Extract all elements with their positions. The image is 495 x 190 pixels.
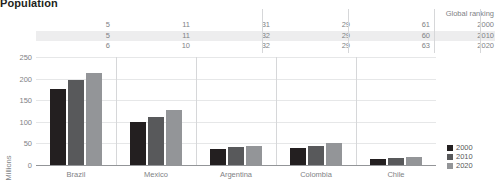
bar bbox=[148, 117, 164, 165]
ranking-value: 31 bbox=[196, 20, 270, 31]
bar bbox=[130, 122, 146, 165]
legend: 200020102020 bbox=[447, 140, 491, 167]
x-axis-category-label: Brazil bbox=[36, 170, 116, 179]
column-separator bbox=[276, 57, 277, 165]
ranking-year-label: 2020 bbox=[454, 41, 494, 52]
column-separator bbox=[356, 57, 357, 165]
ranking-year-separator bbox=[480, 9, 481, 53]
ranking-value: 5 bbox=[36, 20, 110, 31]
ranking-value: 5 bbox=[36, 31, 110, 42]
ranking-row: 5113129612000 bbox=[36, 20, 495, 31]
ranking-value: 63 bbox=[356, 41, 430, 52]
y-axis-tick-label: 150 bbox=[19, 100, 32, 101]
x-axis-category-label: Argentina bbox=[196, 170, 276, 179]
bar bbox=[370, 159, 386, 165]
ranking-row: 6103229632020 bbox=[36, 41, 495, 52]
y-axis-tick-label: 0 bbox=[28, 165, 32, 166]
x-axis-category-label: Mexico bbox=[116, 170, 196, 179]
legend-swatch-icon bbox=[447, 163, 453, 169]
bar bbox=[86, 73, 102, 165]
legend-item[interactable]: 2000 bbox=[447, 140, 491, 149]
ranking-value: 29 bbox=[276, 20, 350, 31]
y-axis-tick-label: 100 bbox=[19, 122, 32, 123]
bar bbox=[68, 80, 84, 165]
y-axis-tick-label: 50 bbox=[24, 143, 32, 144]
ranking-value: 10 bbox=[116, 41, 190, 52]
bar bbox=[166, 110, 182, 165]
bar bbox=[326, 143, 342, 165]
bar bbox=[290, 148, 306, 165]
y-axis-title: Millions bbox=[4, 114, 14, 190]
ranking-value: 11 bbox=[116, 31, 190, 42]
legend-item[interactable]: 2020 bbox=[447, 158, 491, 167]
bar bbox=[246, 146, 262, 165]
ranking-row: 5113229602010 bbox=[36, 31, 495, 42]
x-axis-category-label: Colombia bbox=[276, 170, 356, 179]
ranking-value: 29 bbox=[276, 41, 350, 52]
y-axis-tick-label: 250 bbox=[19, 57, 32, 58]
bar bbox=[406, 157, 422, 165]
bar bbox=[388, 158, 404, 165]
ranking-column-separator bbox=[348, 9, 349, 53]
y-axis-tick-label: 200 bbox=[19, 79, 32, 80]
column-separator bbox=[116, 57, 117, 165]
plot-area: Millions 050100150200250 bbox=[36, 57, 436, 165]
ranking-value: 6 bbox=[36, 41, 110, 52]
ranking-value: 61 bbox=[356, 20, 430, 31]
bar bbox=[228, 147, 244, 165]
ranking-value: 32 bbox=[196, 31, 270, 42]
ranking-year-label: 2000 bbox=[454, 20, 494, 31]
column-separator bbox=[196, 57, 197, 165]
bar bbox=[50, 89, 66, 165]
page-title: Population bbox=[0, 0, 58, 9]
bar bbox=[308, 146, 324, 165]
x-axis-baseline: 0 bbox=[36, 165, 436, 166]
legend-item[interactable]: 2010 bbox=[447, 149, 491, 158]
ranking-value: 11 bbox=[116, 20, 190, 31]
ranking-value: 60 bbox=[356, 31, 430, 42]
global-ranking-header-label: Global ranking bbox=[446, 9, 494, 18]
bar bbox=[210, 149, 226, 165]
legend-label: 2020 bbox=[456, 161, 473, 170]
ranking-value: 32 bbox=[196, 41, 270, 52]
ranking-value: 29 bbox=[276, 31, 350, 42]
ranking-column-separator bbox=[262, 9, 263, 53]
ranking-year-label: 2010 bbox=[454, 31, 494, 42]
gridline: 250 bbox=[36, 57, 436, 58]
x-axis-category-label: Chile bbox=[356, 170, 436, 179]
global-ranking-table: Global ranking 5113129612000511322960201… bbox=[36, 9, 495, 53]
ranking-column-separator bbox=[434, 9, 435, 53]
